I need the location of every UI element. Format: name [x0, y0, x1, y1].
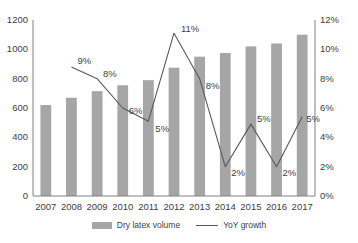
bar-swatch-icon — [92, 222, 112, 229]
bar-2012 — [169, 68, 180, 196]
y-tick-right-4pct: 4% — [320, 132, 350, 142]
point-label-2013: 8% — [206, 81, 220, 91]
x-tick-2014: 2014 — [211, 202, 239, 212]
y-tick-right-6pct: 6% — [320, 103, 350, 113]
y-tick-left-200: 200 — [0, 162, 28, 172]
y-tick-right-10pct: 10% — [320, 44, 350, 54]
point-label-2010: 6% — [129, 106, 143, 116]
y-tick-left-1000: 1000 — [0, 44, 28, 54]
bar-2009 — [92, 91, 103, 196]
legend-item-line[interactable]: YoY growth — [196, 220, 266, 230]
point-label-2011: 5% — [155, 124, 169, 134]
bar-2007 — [40, 105, 51, 196]
y-tick-right-0pct: 0% — [320, 191, 350, 201]
point-label-2016: 2% — [283, 168, 297, 178]
y-tick-right-12pct: 12% — [320, 15, 350, 25]
bar-2011 — [143, 80, 154, 196]
y-tick-left-400: 400 — [0, 132, 28, 142]
point-label-2008: 9% — [77, 56, 91, 66]
legend-label-line: YoY growth — [223, 220, 266, 230]
legend-item-bar[interactable]: Dry latex volume — [92, 220, 180, 230]
chart-legend: Dry latex volume YoY growth — [0, 220, 358, 230]
point-label-2009: 8% — [103, 69, 117, 79]
x-tick-2015: 2015 — [237, 202, 265, 212]
bar-2015 — [246, 46, 257, 196]
y-tick-left-0: 0 — [0, 191, 28, 201]
x-tick-2008: 2008 — [57, 202, 85, 212]
bar-2008 — [66, 98, 77, 196]
legend-label-bar: Dry latex volume — [117, 220, 180, 230]
bar-2016 — [271, 43, 282, 196]
line-swatch-icon — [196, 225, 218, 226]
y-tick-left-1200: 1200 — [0, 15, 28, 25]
chart-container: 020040060080010001200 0%2%4%6%8%10%12% 2… — [0, 0, 358, 243]
growth-line — [71, 33, 302, 166]
y-tick-right-8pct: 8% — [320, 74, 350, 84]
point-label-2015: 5% — [257, 114, 271, 124]
point-label-2012: 11% — [181, 24, 199, 34]
point-label-2014: 2% — [231, 168, 245, 178]
x-tick-2012: 2012 — [160, 202, 188, 212]
y-tick-left-600: 600 — [0, 103, 28, 113]
x-tick-2013: 2013 — [186, 202, 214, 212]
x-tick-2016: 2016 — [263, 202, 291, 212]
point-label-2017: 5% — [306, 114, 320, 124]
x-tick-2017: 2017 — [288, 202, 316, 212]
y-tick-right-2pct: 2% — [320, 162, 350, 172]
x-tick-2011: 2011 — [134, 202, 162, 212]
bar-2010 — [117, 85, 128, 196]
y-tick-left-800: 800 — [0, 74, 28, 84]
x-tick-2009: 2009 — [83, 202, 111, 212]
bar-2014 — [220, 53, 231, 196]
x-tick-2010: 2010 — [109, 202, 137, 212]
x-tick-2007: 2007 — [32, 202, 60, 212]
